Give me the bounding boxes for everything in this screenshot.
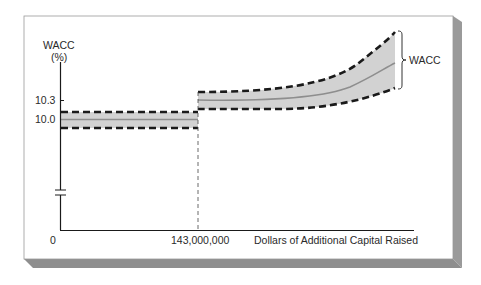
y-axis-title-line2: (%) [51,51,67,63]
x-tick-label-zero: 0 [50,234,56,246]
wacc-chart: WACC (%) 10.3 10.0 0 143,000,000 Dollars… [0,0,481,285]
panel-shadow-bottom [24,259,462,268]
x-axis-title: Dollars of Additional Capital Raised [254,234,418,246]
y-tick-label-10-0: 10.0 [35,113,56,125]
y-tick-label-10-3: 10.3 [35,94,56,106]
x-tick-label-breakpoint: 143,000,000 [171,234,230,246]
panel-shadow-right [453,16,462,268]
y-axis-title-line1: WACC [43,39,75,51]
brace-label: WACC [409,54,441,66]
